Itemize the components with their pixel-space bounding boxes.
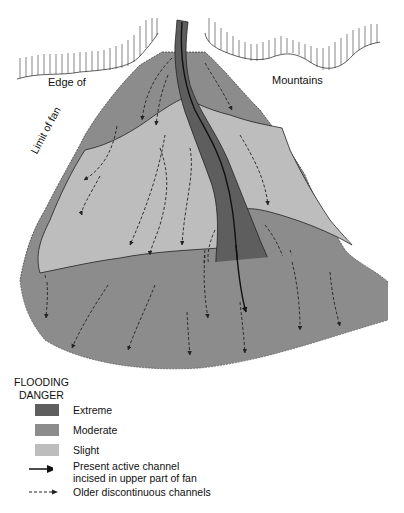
legend-label-active-channel-1: Present active channel bbox=[73, 460, 197, 472]
legend-label-slight: Slight bbox=[73, 444, 99, 456]
swatch-extreme bbox=[35, 404, 59, 416]
legend-label-extreme: Extreme bbox=[73, 404, 112, 416]
swatch-moderate bbox=[35, 424, 59, 436]
alluvial-fan-map bbox=[0, 0, 404, 400]
legend-item-older-channels: Older discontinuous channels bbox=[35, 486, 211, 498]
label-edge-of: Edge of bbox=[48, 76, 86, 88]
mountain-edge-right bbox=[205, 18, 380, 70]
legend-item-extreme: Extreme bbox=[35, 404, 112, 416]
label-mountains: Mountains bbox=[272, 74, 323, 86]
dashed-arrow-icon bbox=[35, 486, 59, 498]
legend-label-active-channel-2: incised in upper part of fan bbox=[73, 472, 197, 484]
legend-item-slight: Slight bbox=[35, 444, 99, 456]
legend-title-line1: FLOODING bbox=[14, 376, 69, 389]
legend-title: FLOODING DANGER bbox=[14, 376, 69, 402]
legend-title-line2: DANGER bbox=[14, 389, 69, 402]
legend-label-older-channels: Older discontinuous channels bbox=[73, 486, 211, 498]
legend-item-active-channel: Present active channel incised in upper … bbox=[35, 460, 197, 484]
legend-item-moderate: Moderate bbox=[35, 424, 117, 436]
solid-arrow-icon bbox=[35, 460, 59, 472]
legend-label-moderate: Moderate bbox=[73, 424, 117, 436]
swatch-slight bbox=[35, 444, 59, 456]
